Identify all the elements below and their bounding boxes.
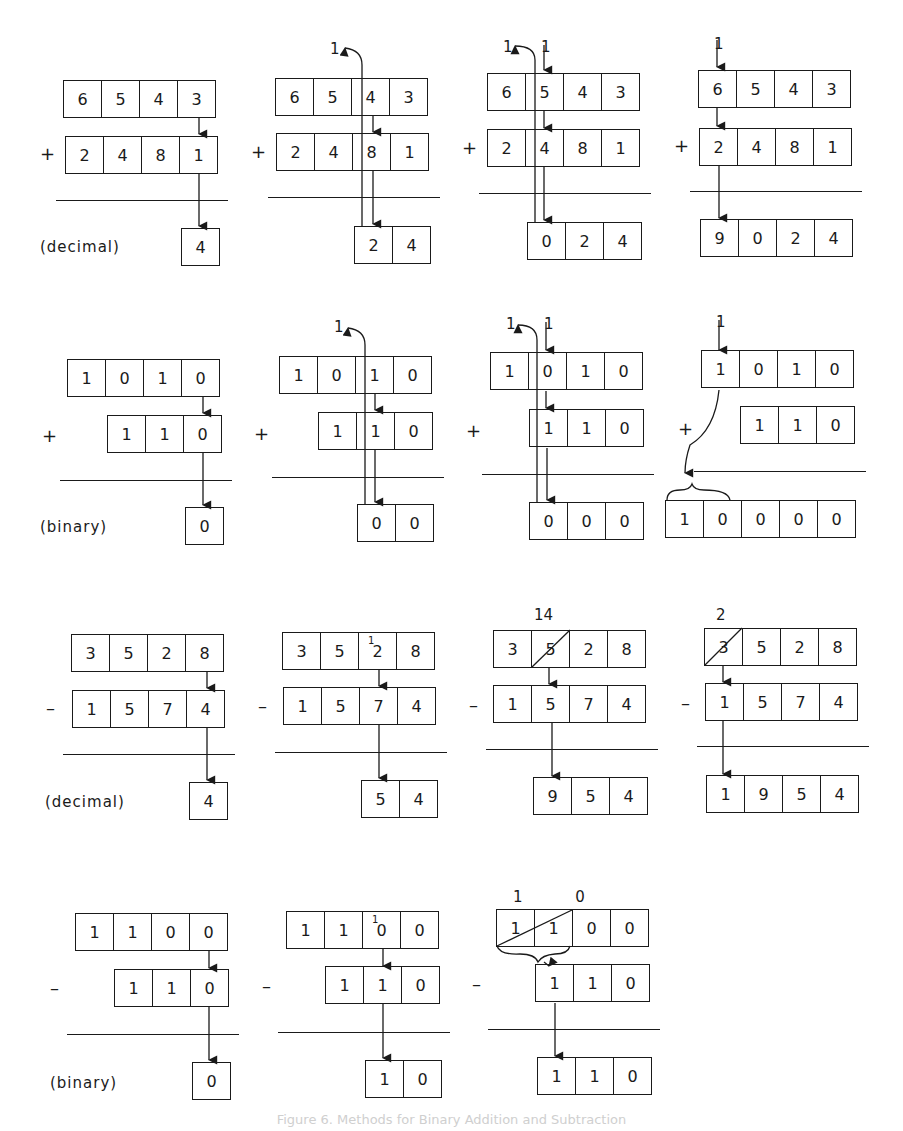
- digit: 5: [102, 81, 140, 117]
- digit: 3: [813, 71, 850, 107]
- digit: 1: [73, 691, 111, 727]
- digit: 1: [574, 965, 612, 1001]
- borrow-note: 14: [534, 606, 553, 624]
- digit: 4: [821, 776, 858, 812]
- carry-in-note: 1: [544, 315, 554, 333]
- digit: 5: [321, 633, 359, 669]
- digit: 4: [393, 227, 430, 263]
- digit: 6: [64, 81, 102, 117]
- minuend: 1 1 0 0: [496, 909, 649, 947]
- addend-top: 1 0 1 0: [279, 356, 432, 394]
- digit: 1: [666, 501, 704, 537]
- plus-sign: +: [462, 137, 477, 158]
- subtrahend: 1 5 7 4: [705, 683, 858, 721]
- row-label: (decimal): [40, 238, 120, 256]
- result: 1 1 0: [537, 1057, 652, 1095]
- subtrahend: 1 5 7 4: [72, 690, 225, 728]
- plus-sign: +: [466, 420, 481, 441]
- minus-sign: –: [50, 977, 59, 998]
- difference-line: [275, 752, 447, 753]
- digit: 8: [142, 137, 180, 173]
- digit: 4: [610, 778, 647, 814]
- borrow-mark: 1: [372, 914, 378, 925]
- borrow-mark: 1: [368, 635, 374, 646]
- digit: 4: [738, 129, 776, 165]
- digit: 1: [366, 1061, 404, 1097]
- digit: 8: [397, 633, 434, 669]
- digit: 1: [144, 360, 182, 396]
- digit: 0: [742, 501, 780, 537]
- minus-sign: –: [46, 697, 55, 718]
- digit: 1: [779, 407, 817, 443]
- result: 0 0: [357, 504, 434, 542]
- digit: 0: [739, 220, 777, 256]
- digit: 0: [401, 912, 438, 948]
- digit: 1: [280, 357, 318, 393]
- digit: 6: [488, 74, 526, 110]
- digit: 0: [817, 407, 854, 443]
- sum-line: [272, 477, 444, 478]
- subtrahend: 1 1 0: [114, 969, 229, 1007]
- carry-note: 1: [330, 40, 340, 58]
- digit: 1: [153, 970, 191, 1006]
- digit: 5: [743, 629, 781, 665]
- digit: 5: [737, 71, 775, 107]
- borrow-note: 1 0: [513, 888, 609, 906]
- result: 0: [192, 1062, 231, 1100]
- digit: 1: [325, 912, 363, 948]
- digit: 0: [573, 910, 611, 946]
- digit: 0: [605, 353, 642, 389]
- digit: 1: [491, 353, 529, 389]
- subtrahend: 1 1 0: [535, 964, 650, 1002]
- digit: 1: [567, 353, 605, 389]
- minus-sign: –: [258, 695, 267, 716]
- digit: 8: [819, 629, 856, 665]
- addend-bottom: 1 1 0: [529, 409, 644, 447]
- digit: 1: [319, 413, 357, 449]
- digit: 0: [358, 505, 396, 541]
- difference-line: [63, 754, 235, 755]
- digit: 0: [611, 910, 648, 946]
- result: 5 4: [361, 780, 438, 818]
- digit: 5: [111, 691, 149, 727]
- plus-sign: +: [251, 141, 266, 162]
- row-label: (binary): [40, 518, 107, 536]
- digit: 6: [699, 71, 737, 107]
- minus-sign: –: [262, 975, 271, 996]
- digit: 8: [776, 129, 814, 165]
- digit: 1: [76, 914, 114, 950]
- digit: 8: [564, 130, 602, 166]
- digit: 1: [530, 410, 568, 446]
- addend-top: 6 5 4 3: [275, 78, 428, 116]
- digit: 9: [534, 778, 572, 814]
- addend-bottom: 2 4 8 1: [65, 136, 218, 174]
- digit: 2: [700, 129, 738, 165]
- digit: 7: [360, 688, 398, 724]
- digit: 4: [564, 74, 602, 110]
- digit: 5: [362, 781, 400, 817]
- difference-line: [486, 749, 658, 750]
- result: 2 4: [354, 226, 431, 264]
- digit: 0: [184, 416, 221, 452]
- digit: 1: [568, 410, 606, 446]
- digit: 5: [783, 776, 821, 812]
- digit: 1: [391, 134, 428, 170]
- digit: 4: [398, 688, 435, 724]
- sum-line: [482, 474, 654, 475]
- addend-top: 1 0 1 0: [490, 352, 643, 390]
- digit: 0: [612, 965, 649, 1001]
- digit: 7: [570, 686, 608, 722]
- carry-in-note: 1: [714, 35, 724, 53]
- result: 1 9 5 4: [706, 775, 859, 813]
- sum-line: [56, 200, 228, 201]
- digit: 1: [356, 357, 394, 393]
- result: 9 5 4: [533, 777, 648, 815]
- digit: 2: [66, 137, 104, 173]
- digit: 4: [187, 691, 224, 727]
- digit: 0: [402, 967, 439, 1003]
- result: 4: [181, 228, 220, 266]
- digit: 0: [182, 360, 219, 396]
- result: 0 2 4: [527, 222, 642, 260]
- digit: 0: [606, 503, 643, 539]
- minuend: 3 5 2 8: [704, 628, 857, 666]
